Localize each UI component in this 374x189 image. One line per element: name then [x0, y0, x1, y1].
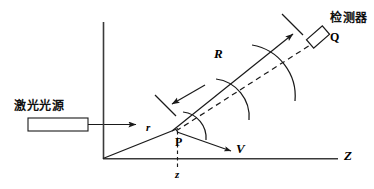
scattered-ray-R	[172, 34, 293, 131]
detector-point-label: Q	[330, 31, 339, 43]
ray-arrow-down-left	[172, 85, 205, 104]
distance-R-label: R	[214, 47, 223, 60]
velocity-vector-arrow	[177, 132, 231, 151]
laser-source-box	[28, 118, 88, 131]
scatter-point-label: P	[175, 136, 182, 148]
wavefront-arc-3	[252, 45, 295, 101]
z-axis-label: Z	[344, 149, 352, 162]
depth-z-label: z	[175, 169, 179, 180]
velocity-label: V	[236, 142, 245, 155]
figure-canvas: 激光光源 检测器 Q P r R V z Z	[0, 0, 374, 189]
aperture-mark-upper	[282, 14, 303, 35]
detector-body	[306, 26, 329, 48]
wavefront-arc-2	[216, 79, 249, 120]
aperture-mark-lower	[155, 95, 176, 116]
laser-source-label: 激光光源	[14, 100, 64, 112]
dashed-ray-to-detector	[176, 40, 318, 131]
distance-r-label: r	[146, 122, 150, 133]
scattering-geometry-svg	[0, 0, 374, 189]
detector-label: 检测器	[330, 12, 368, 24]
incident-ray-r	[103, 129, 178, 159]
